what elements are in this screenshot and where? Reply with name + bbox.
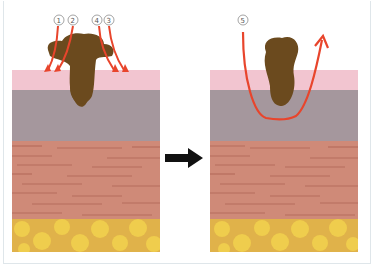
diagram-overlay-right: 5 xyxy=(0,0,374,269)
lesion-icon xyxy=(265,37,299,106)
svg-text:5: 5 xyxy=(241,17,245,25)
